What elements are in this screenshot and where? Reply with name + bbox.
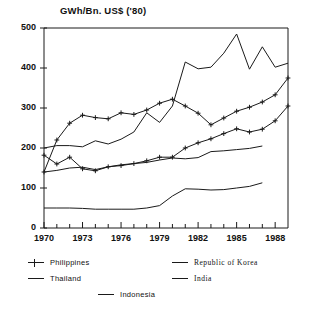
legend-entry-republic-of-korea: Republic of Korea — [172, 258, 258, 267]
legend-swatch-icon — [172, 259, 188, 267]
y-tick-0: 0 — [10, 222, 36, 232]
x-tick-1985: 1985 — [220, 233, 254, 243]
chart-legend: PhilippinesRepublic of KoreaThailandIndi… — [0, 252, 309, 300]
x-tick-1970: 1970 — [27, 233, 61, 243]
y-tick-400: 400 — [10, 62, 36, 72]
chart-axes — [40, 28, 288, 228]
x-tick-1988: 1988 — [258, 233, 292, 243]
legend-label: Republic of Korea — [194, 258, 258, 267]
series-indonesia — [44, 183, 262, 209]
y-tick-500: 500 — [10, 22, 36, 32]
x-tick-1982: 1982 — [181, 233, 215, 243]
chart-figure: GWh/Bn. US$ ('80) 0100200300400500 19701… — [0, 0, 309, 311]
series-republic-of-korea — [44, 34, 288, 148]
legend-label: India — [194, 274, 212, 283]
legend-swatch-icon — [98, 291, 114, 299]
x-tick-1973: 1973 — [66, 233, 100, 243]
x-tick-1976: 1976 — [104, 233, 138, 243]
legend-label: Thailand — [50, 274, 81, 283]
x-tick-1979: 1979 — [143, 233, 177, 243]
legend-entry-philippines: Philippines — [28, 258, 90, 267]
legend-label: Philippines — [50, 258, 90, 267]
legend-swatch-icon — [28, 259, 44, 267]
chart-series-layer — [42, 34, 291, 209]
legend-swatch-icon — [28, 275, 44, 283]
series-philippines — [42, 76, 291, 175]
legend-entry-india: India — [172, 274, 212, 283]
legend-label: Indonesia — [120, 290, 155, 299]
y-tick-300: 300 — [10, 102, 36, 112]
y-tick-100: 100 — [10, 182, 36, 192]
y-tick-200: 200 — [10, 142, 36, 152]
legend-entry-thailand: Thailand — [28, 274, 81, 283]
legend-swatch-icon — [172, 275, 188, 283]
legend-entry-indonesia: Indonesia — [98, 290, 155, 299]
